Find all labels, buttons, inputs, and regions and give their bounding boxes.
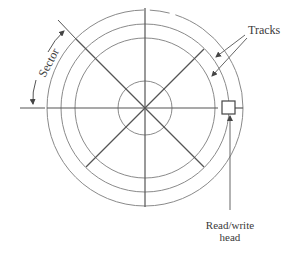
spoke-sw <box>86 108 145 167</box>
head-label-line1: Read/write <box>206 219 254 231</box>
tracks-label: Tracks <box>248 23 281 37</box>
spoke-se <box>145 108 204 167</box>
disk-diagram: Sector Read/write head Tracks <box>0 0 297 254</box>
sector-tick-top <box>58 20 76 39</box>
head-label-line2: head <box>220 231 241 243</box>
tracks-pointer-2 <box>212 38 247 76</box>
spoke-ne <box>145 49 204 108</box>
spoke-nw <box>76 39 145 108</box>
sector-arrow-bottom <box>33 80 36 104</box>
read-write-head <box>222 101 235 114</box>
